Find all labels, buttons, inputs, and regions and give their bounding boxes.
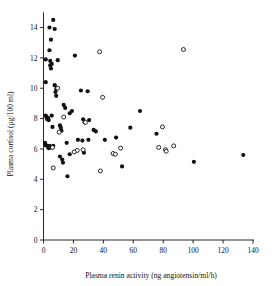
data-point-filled: [114, 135, 118, 139]
data-point-filled: [51, 18, 55, 22]
data-point-filled: [138, 109, 142, 113]
axes-group: [44, 12, 255, 240]
data-point-open: [51, 166, 55, 170]
data-point-filled: [53, 27, 57, 31]
data-point-open: [119, 146, 123, 150]
data-point-filled: [103, 138, 107, 142]
data-point-filled: [120, 164, 124, 168]
y-tick-label: 8: [34, 114, 38, 123]
data-point-filled: [86, 138, 90, 142]
data-point-filled: [44, 57, 48, 61]
data-point-filled: [49, 38, 53, 42]
data-point-filled: [50, 113, 54, 117]
data-point-open: [83, 120, 87, 124]
data-point-open: [81, 148, 85, 152]
data-point-open: [113, 152, 117, 156]
data-point-open: [157, 145, 161, 149]
data-point-open: [72, 150, 76, 154]
data-point-filled: [73, 53, 77, 57]
data-point-open: [50, 145, 54, 149]
data-point-filled: [65, 174, 69, 178]
data-point-filled: [154, 132, 158, 136]
x-axis-title: Plasma renin activity (ng angiotensin/ml…: [85, 271, 217, 280]
data-point-filled: [61, 160, 65, 164]
x-axis-ticks: 020406080100120140: [42, 240, 259, 255]
data-point-filled: [65, 141, 69, 145]
x-tick-label: 80: [159, 246, 167, 255]
y-tick-label: 6: [34, 145, 38, 154]
data-point-open: [101, 95, 105, 99]
data-point-open: [98, 50, 102, 54]
data-point-filled: [80, 138, 84, 142]
data-point-filled: [47, 48, 51, 52]
y-tick-label: 4: [34, 175, 38, 184]
data-point-filled: [128, 126, 132, 130]
y-tick-label: 12: [30, 54, 38, 63]
data-point-open: [160, 125, 164, 129]
data-point-open: [62, 115, 66, 119]
data-point-open: [181, 48, 185, 52]
data-point-filled: [76, 138, 80, 142]
y-tick-label: 0: [34, 236, 38, 245]
x-tick-label: 140: [247, 246, 259, 255]
data-point-open: [57, 130, 61, 134]
data-point-open: [56, 86, 60, 90]
data-point-filled: [63, 106, 67, 110]
data-point-open: [172, 144, 176, 148]
data-point-filled: [68, 152, 72, 156]
y-axis-ticks: 02468101214: [30, 23, 44, 245]
data-point-filled: [50, 125, 54, 129]
data-point-filled: [68, 111, 72, 115]
data-point-filled: [56, 58, 60, 62]
data-point-open: [164, 149, 168, 153]
scatter-plot-figure: 02468101214 020406080100120140 Plasma re…: [0, 0, 275, 286]
data-point-filled: [86, 89, 90, 93]
plot-canvas: 02468101214 020406080100120140 Plasma re…: [0, 0, 275, 286]
data-point-filled: [241, 153, 245, 157]
data-point-filled: [47, 25, 51, 29]
data-point-filled: [192, 160, 196, 164]
x-tick-label: 120: [217, 246, 229, 255]
y-axis-title: Plasma cortisol (µg/100 ml): [6, 91, 15, 177]
y-tick-label: 2: [34, 205, 38, 214]
data-points-layer: [43, 18, 245, 179]
x-tick-label: 0: [42, 246, 46, 255]
data-point-open: [98, 169, 102, 173]
data-point-filled: [47, 118, 51, 122]
data-point-filled: [54, 94, 58, 98]
x-tick-label: 100: [188, 246, 200, 255]
data-point-filled: [49, 66, 53, 70]
x-tick-label: 20: [70, 246, 78, 255]
y-tick-label: 10: [30, 84, 38, 93]
data-point-filled: [79, 88, 83, 92]
data-point-filled: [44, 80, 48, 84]
x-tick-label: 60: [130, 246, 138, 255]
x-tick-label: 40: [100, 246, 108, 255]
data-point-filled: [94, 129, 98, 133]
data-point-filled: [53, 90, 57, 94]
y-tick-label: 14: [30, 23, 38, 32]
